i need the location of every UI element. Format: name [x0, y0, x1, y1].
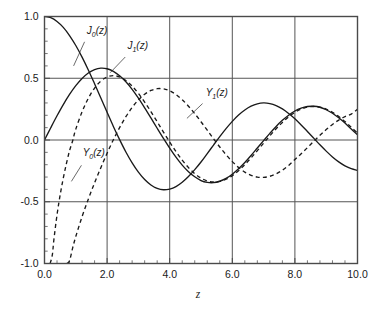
x-tick-label: 6.0: [225, 268, 240, 280]
x-tick-label: 0.0: [37, 268, 52, 280]
x-tick-label: 8.0: [288, 268, 303, 280]
y-tick-label: 0.0: [24, 134, 39, 146]
x-axis-title: z: [195, 288, 201, 300]
x-tick-label: 10.0: [347, 268, 368, 280]
x-tick-label: 2.0: [100, 268, 115, 280]
x-tick-label: 4.0: [162, 268, 177, 280]
y-tick-label: 1.0: [24, 10, 39, 22]
bessel-function-chart: 0.02.04.06.08.010.0 1.00.50.0-0.5-1.0 J0…: [0, 0, 380, 316]
chart-svg: 0.02.04.06.08.010.0 1.00.50.0-0.5-1.0 J0…: [0, 0, 380, 316]
chart-background: [0, 0, 380, 316]
y-tick-label: -1.0: [20, 257, 38, 269]
y-tick-label: 0.5: [24, 72, 39, 84]
y-tick-label: -0.5: [20, 195, 38, 207]
